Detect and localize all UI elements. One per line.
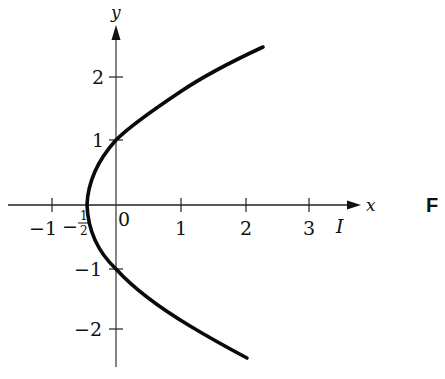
y-axis bbox=[112, 25, 121, 367]
x-tick-label-2: 2 bbox=[240, 217, 252, 239]
vertex-minus-sign: − bbox=[62, 215, 78, 237]
interval-label: I bbox=[335, 215, 344, 237]
y-axis-label: y bbox=[110, 2, 121, 22]
origin-label: 0 bbox=[118, 208, 130, 230]
x-axis-label: x bbox=[366, 195, 376, 215]
parabola-diagram: y x −1 1 2 3 0 − 1 2 I 2 1 −1 −2 F bbox=[0, 0, 445, 379]
y-tick-label-1: 1 bbox=[92, 129, 104, 151]
parabola-curve bbox=[87, 47, 263, 358]
figure-marker-label: F bbox=[426, 194, 438, 216]
x-tick-label-1: 1 bbox=[175, 217, 187, 239]
y-tick-label-minus-1: −1 bbox=[74, 258, 102, 280]
vertex-numerator: 1 bbox=[80, 209, 88, 223]
vertex-label: − 1 2 bbox=[62, 209, 88, 238]
x-tick-label-minus-1: −1 bbox=[29, 217, 57, 239]
x-axis-arrow-icon bbox=[347, 201, 361, 210]
vertex-denominator: 2 bbox=[80, 224, 88, 238]
y-axis-arrow-icon bbox=[112, 25, 121, 40]
x-tick-label-3: 3 bbox=[303, 217, 315, 239]
x-axis bbox=[8, 201, 361, 210]
y-tick-label-2: 2 bbox=[92, 66, 104, 88]
y-tick-label-minus-2: −2 bbox=[74, 318, 102, 340]
